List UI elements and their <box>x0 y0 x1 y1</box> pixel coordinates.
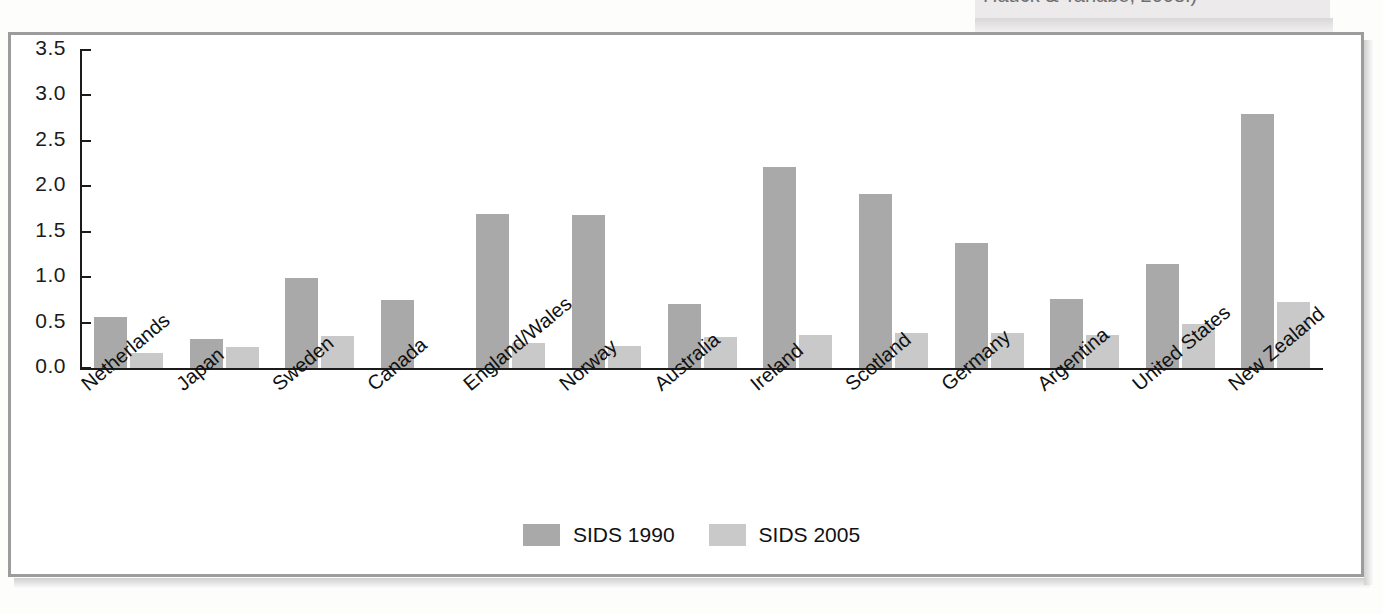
figure-caption-fragment: Hauck & Tanabe, 2008.) <box>975 0 1330 18</box>
legend-item-sids-1990: SIDS 1990 <box>523 523 675 547</box>
figure-frame-shadow-right <box>1364 40 1373 585</box>
caption-drop-shadow <box>975 18 1333 32</box>
figure-caption-text: Hauck & Tanabe, 2008.) <box>983 0 1197 7</box>
legend-label: SIDS 2005 <box>759 523 861 547</box>
chart-legend: SIDS 1990SIDS 2005 <box>523 523 860 547</box>
legend-label: SIDS 1990 <box>573 523 675 547</box>
legend-item-sids-2005: SIDS 2005 <box>709 523 861 547</box>
legend-swatch-icon <box>709 524 746 546</box>
figure-frame-shadow-bottom <box>14 578 1370 588</box>
legend-swatch-icon <box>523 524 560 546</box>
figure-frame <box>8 32 1364 577</box>
